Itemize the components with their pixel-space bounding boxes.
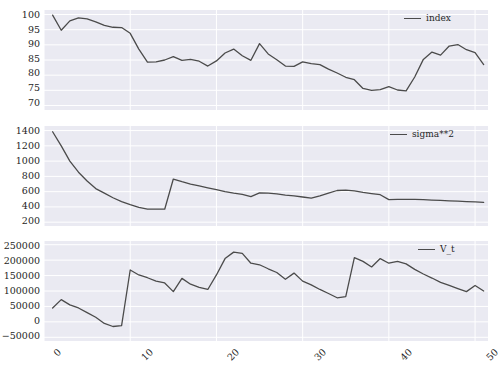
y-tick-label: 85 (28, 54, 40, 64)
data-line-sigma**2 (53, 132, 484, 209)
plot-area-sigma (44, 126, 488, 226)
y-axis-ticks-vt: 250000 200000 150000 100000 50000 0 −500… (0, 233, 40, 365)
legend-sigma: sigma**2 (390, 129, 454, 139)
plot-area-index (44, 10, 488, 110)
x-tick-label: 0 (52, 347, 63, 358)
subplot-index: 100 95 90 85 80 75 70 index (0, 0, 492, 115)
legend-line-icon (390, 134, 407, 135)
y-tick-label: 70 (28, 98, 40, 108)
y-tick-label: 1000 (16, 156, 40, 166)
x-tick-label: 40 (398, 347, 414, 363)
line-chart-vt (44, 241, 488, 341)
legend-line-icon (404, 18, 421, 19)
legend-index: index (404, 13, 451, 23)
y-tick-label: 80 (28, 68, 40, 78)
y-tick-label: 200 (22, 216, 40, 226)
legend-vt: V_t (418, 244, 455, 254)
y-tick-label: 200000 (4, 256, 40, 266)
data-line-V_t (53, 252, 484, 326)
x-tick-label: 10 (140, 347, 156, 363)
plot-area-vt (44, 241, 488, 341)
line-chart-index (44, 10, 488, 110)
legend-label-index: index (426, 13, 451, 23)
legend-label-sigma: sigma**2 (412, 129, 454, 139)
y-tick-label: 95 (28, 25, 40, 35)
y-axis-ticks-index: 100 95 90 85 80 75 70 (0, 0, 40, 115)
y-tick-label: 90 (28, 39, 40, 49)
y-tick-label: 100000 (4, 286, 40, 296)
subplot-vt: 250000 200000 150000 100000 50000 0 −500… (0, 233, 492, 365)
x-tick-label: 50 (485, 347, 500, 363)
line-chart-sigma (44, 126, 488, 226)
y-tick-label: 250000 (4, 241, 40, 251)
y-tick-label: 0 (34, 316, 40, 326)
data-line-index (53, 15, 484, 91)
y-tick-label: 400 (22, 201, 40, 211)
subplot-sigma: 1400 1200 1000 800 600 400 200 sigma**2 (0, 118, 492, 230)
y-axis-ticks-sigma: 1400 1200 1000 800 600 400 200 (0, 118, 40, 230)
y-tick-label: 600 (22, 186, 40, 196)
x-tick-label: 30 (312, 347, 328, 363)
y-tick-label: −50000 (2, 331, 40, 341)
x-axis-ticks: 01020304050 (44, 343, 488, 365)
y-tick-label: 50000 (10, 301, 40, 311)
y-tick-label: 75 (28, 83, 40, 93)
y-tick-label: 100 (22, 10, 40, 20)
legend-label-vt: V_t (440, 244, 455, 254)
y-tick-label: 800 (22, 171, 40, 181)
y-tick-label: 1200 (16, 141, 40, 151)
y-tick-label: 150000 (4, 271, 40, 281)
legend-line-icon (418, 249, 435, 250)
x-tick-label: 20 (226, 347, 242, 363)
y-tick-label: 1400 (16, 126, 40, 136)
